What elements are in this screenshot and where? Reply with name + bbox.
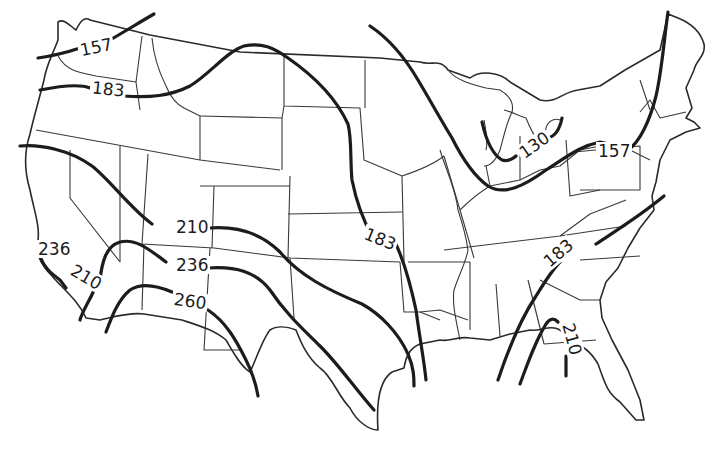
great-lakes-outline — [448, 70, 560, 166]
us-map — [0, 0, 721, 464]
contour-label-157-ne: 157 — [596, 142, 632, 160]
contour-label-236-sw: 236 — [174, 256, 210, 274]
contour-157-ne — [370, 12, 668, 190]
contour-label-210-west: 210 — [174, 218, 210, 236]
contour-236-sw — [100, 241, 374, 410]
contour-label-183-west: 183 — [89, 78, 127, 100]
contour-label-236-coast: 236 — [36, 240, 72, 258]
contour-label-260-sw: 260 — [171, 290, 210, 313]
contour-236-coast — [40, 256, 66, 288]
